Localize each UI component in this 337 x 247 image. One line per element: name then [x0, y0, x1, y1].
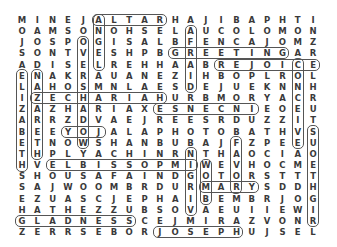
found-word-greeting-outline: [168, 47, 289, 59]
found-word-zechariah-outline: [30, 92, 167, 104]
word-search-board: MINEJALTARHAJIBAPHTIOAMSONOHSELAUCOLOMON…: [0, 0, 337, 247]
found-word-afraid-outline: [185, 25, 197, 94]
grid-cell[interactable]: J: [259, 226, 275, 238]
grid-cell[interactable]: E: [29, 226, 45, 238]
found-word-conceive-outline: [292, 58, 304, 149]
found-word-mary-outline: [199, 181, 259, 193]
found-word-joseph-outline: [153, 226, 244, 238]
found-word-rejoice-outline: [214, 59, 320, 71]
found-word-impossible-outline: [46, 159, 198, 171]
found-word-nazareth-outline: [31, 69, 43, 160]
found-word-virgin-outline: [185, 147, 197, 216]
grid-cell[interactable]: Z: [14, 226, 30, 238]
grid-cell[interactable]: R: [45, 226, 61, 238]
grid-cell[interactable]: E: [91, 226, 107, 238]
grid-cell[interactable]: O: [121, 226, 137, 238]
grid-cell[interactable]: B: [106, 226, 122, 238]
found-word-angel-outline: [93, 14, 105, 72]
grid-cell[interactable]: E: [290, 226, 306, 238]
grid-cell[interactable]: R: [60, 226, 76, 238]
grid-cell[interactable]: L: [305, 226, 321, 238]
found-word-righteous-outline: [307, 125, 319, 227]
grid-cell[interactable]: U: [244, 226, 260, 238]
found-word-elizabeth-outline: [16, 69, 28, 171]
grid-cell[interactable]: R: [137, 226, 153, 238]
found-word-incense-outline: [153, 103, 259, 115]
grid-cell[interactable]: S: [75, 226, 91, 238]
found-word-gladness-outline: [15, 215, 136, 227]
grid-cell[interactable]: S: [274, 226, 290, 238]
found-word-joy-outline: [61, 126, 106, 138]
